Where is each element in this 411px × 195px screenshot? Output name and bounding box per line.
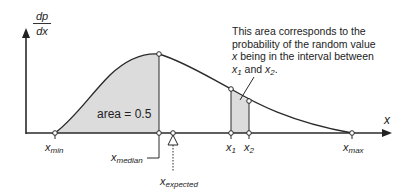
y-label-denominator: dx bbox=[33, 25, 51, 37]
label-x1-base: x bbox=[226, 141, 232, 153]
annotation-line-1: This area corresponds to the bbox=[232, 25, 402, 38]
point-x1-curve bbox=[229, 87, 234, 92]
label-xmedian: xmedian bbox=[111, 151, 143, 163]
annotation-period: . bbox=[275, 63, 278, 75]
point-xmin bbox=[53, 131, 58, 136]
label-xexpected: xexpected bbox=[160, 175, 198, 187]
point-x2-base bbox=[247, 131, 252, 136]
annotation-pointer bbox=[240, 77, 254, 100]
interval-shaded-area bbox=[231, 89, 249, 133]
label-xmedian-sub: median bbox=[117, 156, 143, 165]
annotation-x1-sub: 1 bbox=[237, 68, 241, 77]
label-x2: x2 bbox=[244, 141, 254, 153]
point-x1-base bbox=[229, 131, 234, 136]
label-xmin-base: x bbox=[45, 141, 51, 153]
label-xmax-sub: max bbox=[349, 146, 364, 155]
label-xexpected-sub: expected bbox=[166, 180, 198, 189]
label-xmedian-base: x bbox=[111, 151, 117, 163]
annotation-text: This area corresponds to the probability… bbox=[232, 25, 402, 77]
label-xmax-base: x bbox=[343, 141, 349, 153]
y-axis-label: dp dx bbox=[33, 10, 51, 37]
label-xmin: xmin bbox=[45, 141, 63, 153]
label-xmin-sub: min bbox=[51, 146, 64, 155]
annotation-line-2: probability of the random value bbox=[232, 38, 402, 51]
expected-triangle-icon bbox=[168, 135, 178, 145]
point-xmax bbox=[350, 131, 355, 136]
annotation-line-3-rest: being in the interval between bbox=[237, 50, 374, 62]
y-label-numerator: dp bbox=[33, 10, 51, 22]
median-leader-line bbox=[147, 133, 159, 158]
annotation-and: and bbox=[242, 63, 265, 75]
fraction-bar bbox=[33, 23, 51, 24]
x-axis-label: x bbox=[384, 113, 390, 127]
point-peak bbox=[157, 52, 162, 57]
label-xexpected-base: x bbox=[160, 175, 166, 187]
annotation-line-3: x being in the interval between bbox=[232, 50, 402, 63]
annotation-x2-sub: 2 bbox=[270, 68, 274, 77]
label-x2-sub: 2 bbox=[250, 146, 254, 155]
label-x1-sub: 1 bbox=[232, 146, 236, 155]
y-axis-arrow-icon bbox=[22, 28, 30, 38]
area-label: area = 0.5 bbox=[97, 107, 151, 121]
point-x2-curve bbox=[247, 99, 252, 104]
x-axis-arrow-icon bbox=[382, 129, 392, 137]
annotation-line-4: x1 and x2. bbox=[232, 63, 402, 78]
point-median-base bbox=[157, 131, 162, 136]
median-shaded-area bbox=[55, 54, 159, 133]
label-x2-base: x bbox=[244, 141, 250, 153]
label-x1: x1 bbox=[226, 141, 236, 153]
label-xmax: xmax bbox=[343, 141, 364, 153]
point-expected bbox=[171, 131, 176, 136]
